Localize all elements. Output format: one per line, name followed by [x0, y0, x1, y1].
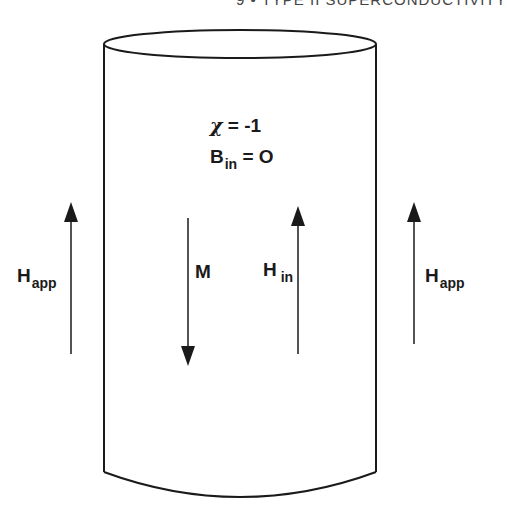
- cylinder-bottom-arc: [104, 472, 376, 497]
- label-magnetization: M: [195, 262, 211, 281]
- label-h-app-right: Happ: [425, 266, 465, 290]
- internal-field-equation: Bin = O: [210, 147, 274, 171]
- arrowhead-up-icon: [407, 202, 421, 222]
- arrowhead-up-icon: [64, 202, 78, 222]
- label-h-in: Hin: [263, 260, 293, 284]
- arrowhead-up-icon: [291, 206, 305, 226]
- susceptibility-equation: χ = -1: [210, 116, 261, 135]
- cylinder-top-ellipse: [104, 30, 376, 58]
- label-h-app-left: Happ: [17, 266, 57, 290]
- arrowhead-down-icon: [181, 346, 195, 366]
- superconducting-cylinder: [104, 30, 376, 497]
